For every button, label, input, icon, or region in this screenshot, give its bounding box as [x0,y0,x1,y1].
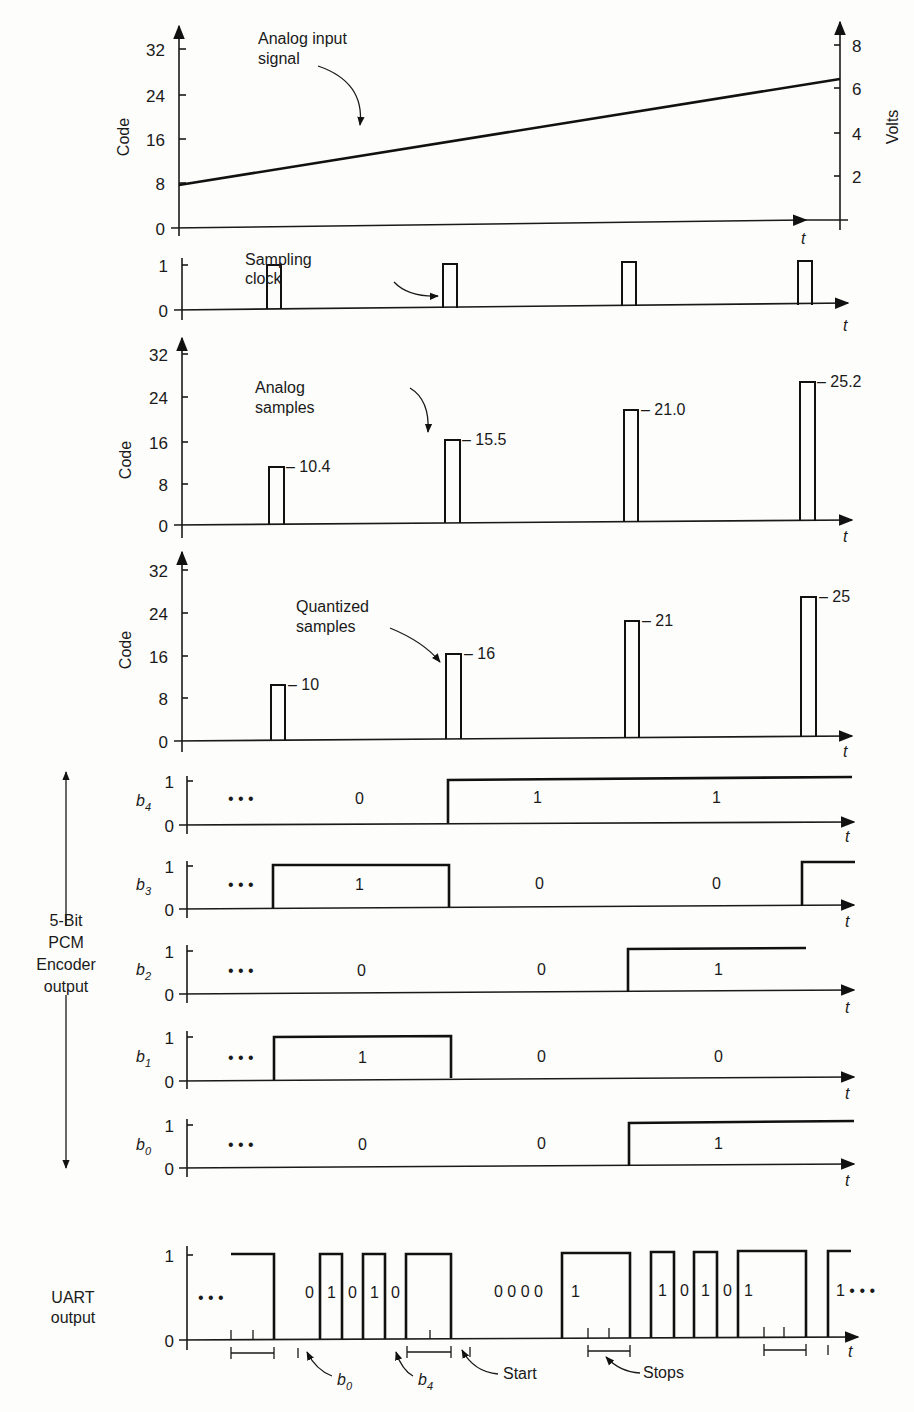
analog-input-panel: 0 8 16 24 32 2 4 6 8 Code Volts t Analog… [115,22,901,247]
label-pcm: PCM [48,934,84,951]
label-5bit: 5-Bit [50,912,83,929]
bit-lane-b3: 1 0 b3 • • • 1 0 0 t [136,858,855,930]
quantized-value-2: – 16 [464,645,495,662]
callout-arrow-stops [606,1357,640,1373]
x-label-t: t [801,230,806,247]
callout-stops: Stops [643,1364,684,1381]
tick-24: 24 [146,87,165,106]
x-label-t: t [845,913,850,930]
ellipsis: • • • [228,962,254,979]
annotation-quantized: Quantized [296,598,369,615]
bit-value: 0 [537,1048,546,1065]
bit-value: 0 [355,790,364,807]
y-label-volts: Volts [884,110,901,145]
callout-arrow-b0 [307,1352,332,1376]
x-label-t: t [843,743,848,760]
uart-bit: 0 [723,1282,732,1299]
tick-2v: 2 [852,168,861,187]
quantized-value-4: – 25 [819,588,850,605]
bit-waveform [448,777,852,823]
tick-1: 1 [165,858,174,877]
annotation-sampling: Sampling [245,251,312,268]
bit-value: 0 [358,1136,367,1153]
tick-8: 8 [159,476,168,495]
clock-pulses [267,261,812,309]
ellipsis: • • • [228,790,254,807]
bit-lane-b0: 1 0 b0 • • • 0 0 1 t [136,1117,854,1189]
callout-b4: b4 [418,1371,433,1392]
analog-samples-panel: 0 8 16 24 32 Code t – 10.4 – 15.5 – 21.0… [117,338,862,545]
bit-lane-b2: 1 0 b2 • • • 0 0 1 t [136,943,854,1016]
bit-value: 0 [357,962,366,979]
tick-0: 0 [159,517,168,536]
bit-value: 1 [714,1135,723,1152]
y-label-code: Code [115,118,132,156]
tick-0: 0 [165,1073,174,1092]
tick-6v: 6 [852,80,861,99]
annotation-signal: signal [258,50,300,67]
bit-waveform [802,862,855,906]
uart-label: UART [51,1289,94,1306]
x-label-t: t [843,317,848,334]
uart-bit: 0 [348,1284,357,1301]
tick-16: 16 [149,434,168,453]
tick-0: 0 [165,986,174,1005]
sampling-clock-panel: 1 0 t Sampling clock [159,251,848,334]
uart-panel: UART output 1 0 t • • • [51,1246,875,1392]
annotation-analog: Analog [255,379,305,396]
tick-8: 8 [156,175,165,194]
tick-16: 16 [146,131,165,150]
uart-bit: 1 [370,1284,379,1301]
annotation-samples: samples [255,399,315,416]
tick-32: 32 [149,346,168,365]
left-ticks: 0 8 16 24 32 [146,41,186,239]
tick-16: 16 [149,648,168,667]
x-axis [174,736,852,741]
tick-0: 0 [165,1160,174,1179]
tick-0: 0 [165,1332,174,1351]
tick-1: 1 [159,257,168,276]
sample-value-1: – 10.4 [286,458,331,475]
bit-value: 0 [714,1048,723,1065]
bit-name-b4: b4 [136,792,151,813]
sample-value-4: – 25.2 [817,373,862,390]
tick-1: 1 [165,1247,174,1266]
uart-trailing: 1 • • • [836,1282,875,1299]
tick-24: 24 [149,605,168,624]
y-label-code: Code [117,441,134,479]
bit-value: 0 [537,961,546,978]
tick-0: 0 [159,733,168,752]
tick-1: 1 [165,1117,174,1136]
tick-32: 32 [146,41,165,60]
tick-4v: 4 [852,125,861,144]
uart-bit: 0 [680,1282,689,1299]
uart-bits-frame2: 0 0 0 0 [494,1283,543,1300]
annotation-samples: samples [296,618,356,635]
annotation-arrow [390,628,440,662]
bit-value: 1 [358,1049,367,1066]
bit-value: 0 [537,1135,546,1152]
bit-value: 0 [712,875,721,892]
annotation-arrow [394,282,438,296]
x-label-t: t [848,1343,853,1360]
x-label-t: t [845,1172,850,1189]
pcm-uart-timing-diagram: 0 8 16 24 32 2 4 6 8 Code Volts t Analog… [0,0,914,1412]
tick-8v: 8 [852,37,861,56]
tick-1: 1 [165,1029,174,1048]
uart-bit: 0 [391,1284,400,1301]
bit-lane-b4: 1 0 b4 • • • 0 1 1 t [136,773,854,845]
quantized-value-1: – 10 [288,676,319,693]
callout-start: Start [503,1365,537,1382]
bit-name-b2: b2 [136,961,151,982]
x-label-t: t [845,828,850,845]
y-label-code: Code [117,631,134,669]
bit-value: 1 [355,876,364,893]
bit-name-b0: b0 [136,1136,152,1157]
x-label-t: t [843,528,848,545]
bit-value: 0 [535,875,544,892]
annotation-arrow [318,66,360,125]
uart-bit: 0 [305,1284,314,1301]
tick-0: 0 [165,817,174,836]
tick-0: 0 [159,302,168,321]
ellipsis: • • • [228,1049,254,1066]
